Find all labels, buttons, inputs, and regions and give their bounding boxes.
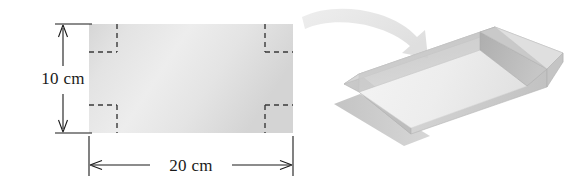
- curved-arrow-body: [302, 9, 428, 58]
- curved-arrow: [302, 9, 428, 58]
- figure-container: 10 cm 20 cm: [0, 0, 582, 181]
- open-box: [334, 27, 563, 146]
- horizontal-dimension-label: 20 cm: [169, 156, 213, 175]
- figure-svg: 10 cm 20 cm: [0, 0, 582, 181]
- rectangular-sheet: [89, 24, 293, 133]
- rectangular-sheet-group: [89, 24, 293, 133]
- vertical-dimension-label: 10 cm: [41, 69, 85, 88]
